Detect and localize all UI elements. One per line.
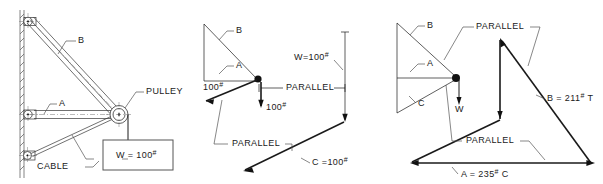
- joint-node: [254, 75, 261, 82]
- label-cable: CABLE: [37, 161, 69, 171]
- label-p2-force-c: C =100#: [312, 156, 348, 168]
- label-p3-member-b: B: [427, 20, 433, 30]
- label-p3-parallel-upper: PARALLEL: [476, 21, 524, 31]
- engineering-figure: W = 100# B A PULLEY CABLE: [0, 0, 603, 184]
- label-pulley: PULLEY: [146, 86, 183, 96]
- label-p2-parallel-upper: PARALLEL: [286, 82, 334, 92]
- panel-1-annotations: B A PULLEY CABLE: [37, 35, 183, 171]
- panel-3-vector-polygon: B A C W PARALLEL PARALLEL B = 211# T A =…: [397, 20, 595, 179]
- label-p2-member-a: A: [236, 60, 242, 70]
- member-a-strut: [30, 111, 118, 119]
- label-member-a: A: [59, 98, 65, 108]
- label-p3-weight: W: [455, 104, 464, 114]
- label-p2-parallel-lower: PARALLEL: [232, 138, 280, 148]
- p3-weight-vector: [457, 80, 462, 105]
- panel-1-physical-arrangement: W = 100# B A PULLEY CABLE: [19, 10, 183, 178]
- p3-polygon-a-leg: [410, 160, 595, 166]
- wall-surface: [20, 10, 24, 178]
- label-p3-member-a: A: [427, 58, 433, 68]
- p3-line-c-reference: [397, 80, 455, 113]
- weight-box-label: W = 100#: [116, 149, 157, 161]
- member-b-strut: [27, 17, 117, 114]
- label-p2-load-down: 100#: [266, 101, 287, 113]
- pulley-sheave: [106, 102, 133, 128]
- label-p3-result-b: B = 211# T: [547, 92, 593, 104]
- p3-polygon-w-leg: [497, 40, 502, 119]
- label-p3-parallel-lower: PARALLEL: [466, 135, 514, 145]
- weight-box: W = 100#: [103, 140, 173, 170]
- weight-vector: [341, 32, 349, 122]
- label-p3-result-a: A = 235# C: [461, 168, 509, 180]
- label-p2-member-b: B: [236, 25, 242, 35]
- line-b-reference: [204, 24, 257, 79]
- label-p2-load-left: 100#: [203, 81, 224, 93]
- panel-2-force-triangle: B A 100# 100# W=100# PARALLEL PARALLEL C…: [203, 24, 349, 173]
- figure-canvas: W = 100# B A PULLEY CABLE: [0, 0, 603, 184]
- p3-line-b-reference: [397, 23, 455, 76]
- label-member-b: B: [78, 35, 84, 45]
- cable-line: [31, 116, 113, 157]
- label-p3-member-c: C: [418, 98, 425, 108]
- panel-2-annotations: B A 100# 100# W=100# PARALLEL PARALLEL C…: [203, 25, 348, 167]
- label-p2-weight: W=100#: [294, 51, 329, 63]
- bracket-middle: [19, 106, 40, 123]
